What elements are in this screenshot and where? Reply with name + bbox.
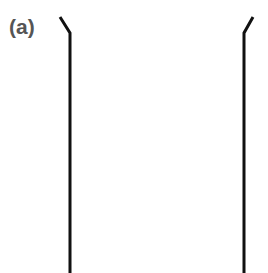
right-wall-line <box>244 17 253 273</box>
left-wall-line <box>60 17 70 273</box>
figure-drawing <box>0 0 268 273</box>
figure-panel-a: (a) <box>0 0 268 273</box>
